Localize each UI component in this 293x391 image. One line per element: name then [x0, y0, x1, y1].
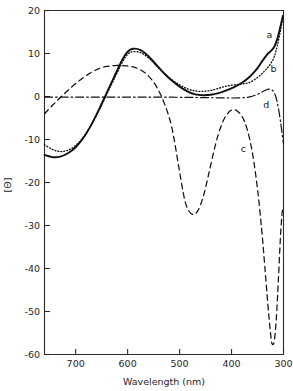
- x-tick-label: 700: [67, 358, 85, 369]
- y-tick-label: -10: [24, 134, 40, 145]
- curve-label-c: c: [241, 143, 246, 154]
- series-curve-d: [45, 89, 284, 144]
- y-tick-label: -30: [24, 220, 40, 231]
- chart-canvas: 20100-10-20-30-40-50-60700600500400300 a…: [0, 0, 293, 391]
- x-tick-label: 400: [222, 358, 240, 369]
- plot-frame: [45, 11, 284, 355]
- series-curve-a: [45, 16, 283, 158]
- curves-group: [45, 16, 284, 345]
- x-tick-label: 600: [119, 358, 137, 369]
- axes-group: [45, 11, 284, 355]
- y-tick-label: 0: [34, 91, 40, 102]
- series-curve-b: [45, 17, 283, 152]
- curve-label-b: b: [271, 63, 277, 74]
- y-axis-title: [Θ]: [2, 178, 13, 193]
- x-tick-label: 300: [274, 358, 292, 369]
- y-tick-label: -40: [24, 263, 40, 274]
- y-tick-label: -20: [24, 177, 40, 188]
- x-tick-label: 500: [171, 358, 189, 369]
- y-tick-label: 10: [28, 48, 40, 59]
- curve-label-d: d: [263, 99, 269, 110]
- ticks-group: 20100-10-20-30-40-50-60700600500400300: [24, 5, 292, 369]
- curve-labels-group: abcd: [241, 29, 277, 154]
- y-tick-label: 20: [28, 5, 40, 16]
- y-tick-label: -60: [24, 349, 40, 360]
- cd-spectrum-figure: 20100-10-20-30-40-50-60700600500400300 a…: [0, 0, 293, 391]
- x-axis-title: Wavelength (nm): [123, 376, 205, 387]
- y-tick-label: -50: [24, 306, 40, 317]
- series-curve-c: [45, 65, 283, 344]
- curve-label-a: a: [267, 29, 273, 40]
